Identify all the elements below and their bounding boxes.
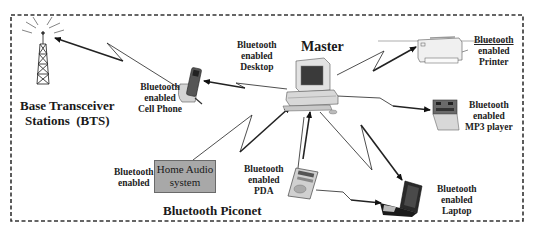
pda-label: Bluetooth enabled PDA — [244, 164, 284, 197]
bts-tower-icon — [22, 17, 64, 84]
bluetooth-piconet-diagram: Bluetooth enabled Desktop Master Bluetoo… — [0, 0, 535, 237]
mp3-label-line2: enabled — [465, 111, 513, 122]
laptop-label-line2: enabled — [437, 195, 477, 206]
bts-label: Base Transceiver Stations (BTS) — [20, 98, 114, 128]
laptop-label: Bluetooth enabled Laptop — [437, 184, 477, 217]
home-audio-label-line2: enabled — [114, 178, 154, 189]
laptop-label-line3: Laptop — [437, 206, 477, 217]
link-pda-desktop — [298, 112, 310, 168]
link-desktop-mp3 — [337, 96, 430, 110]
link-audio-desktop — [193, 107, 290, 160]
master-label: Master — [301, 39, 344, 54]
laptop-label-line1: Bluetooth — [437, 184, 477, 195]
mp3-label-line1: Bluetooth — [465, 100, 513, 111]
printer-label-line2: enabled — [474, 46, 514, 57]
bts-label-line1: Base Transceiver — [20, 98, 114, 113]
mp3-player-icon — [433, 100, 459, 130]
printer-label-line1: Bluetooth — [474, 35, 514, 46]
link-desktop-laptop — [320, 112, 402, 180]
mp3-label-line3: MP3 player — [465, 122, 513, 133]
link-desktop-cellphone — [204, 81, 287, 89]
laptop-icon — [380, 181, 422, 217]
link-pda-laptop — [316, 190, 381, 203]
cell-phone-label: Bluetooth enabled Cell Phone — [138, 82, 182, 115]
home-audio-label: Bluetooth enabled — [114, 167, 154, 189]
printer-label: Bluetooth enabled Printer — [474, 35, 514, 68]
pda-label-line2: enabled — [244, 175, 284, 186]
home-audio-label-line1: Bluetooth — [114, 167, 154, 178]
bts-label-line2: Stations (BTS) — [20, 113, 114, 128]
pda-icon — [288, 168, 318, 199]
desktop-label-line1: Bluetooth — [237, 40, 277, 51]
pda-label-line3: PDA — [244, 186, 284, 197]
printer-label-line3: Printer — [474, 57, 514, 68]
desktop-label: Bluetooth enabled Desktop — [237, 40, 277, 73]
desktop-label-line2: enabled — [237, 51, 277, 62]
desktop-label-line3: Desktop — [237, 62, 277, 73]
cell-phone-label-line2: enabled — [138, 93, 182, 104]
piconet-title: Bluetooth Piconet — [163, 203, 262, 218]
cell-phone-label-line1: Bluetooth — [138, 82, 182, 93]
cell-phone-label-line3: Cell Phone — [138, 104, 182, 115]
pda-label-line1: Bluetooth — [244, 164, 284, 175]
printer-icon — [418, 37, 468, 63]
home-audio-box-line1: Home Audio — [155, 163, 215, 176]
desktop-computer-icon — [283, 58, 338, 114]
home-audio-box-line2: system — [155, 176, 215, 189]
mp3-label: Bluetooth enabled MP3 player — [465, 100, 513, 133]
home-audio-system-box: Home Audio system — [154, 160, 216, 193]
